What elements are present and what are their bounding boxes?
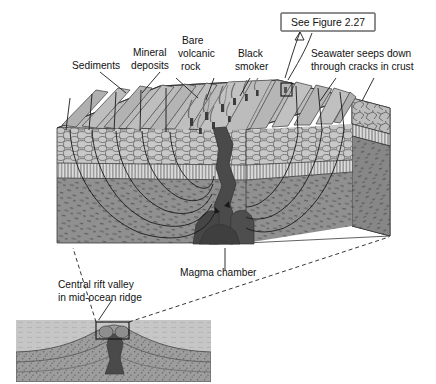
label-magma-chamber: Magma chamber — [180, 267, 257, 278]
inset-cross-section — [16, 320, 211, 382]
label-black-smoker-2: smoker — [235, 61, 269, 72]
label-mineral-deposits-2: deposits — [131, 60, 169, 71]
label-sediments: Sediments — [72, 60, 120, 71]
label-mineral-deposits-1: Mineral — [133, 47, 166, 58]
label-seawater-2: through cracks in crust — [311, 61, 414, 72]
callout-leader — [285, 32, 312, 80]
callout-label: See Figure 2.27 — [291, 17, 365, 28]
label-bare-volcanic-rock-1: Bare — [182, 35, 204, 46]
label-black-smoker-1: Black — [238, 48, 264, 59]
label-seawater-1: Seawater seeps down — [311, 48, 411, 59]
label-bare-volcanic-rock-3: rock — [181, 61, 201, 72]
label-bare-volcanic-rock-2: volcanic — [178, 48, 215, 59]
see-figure-callout[interactable]: See Figure 2.27 — [281, 13, 375, 31]
detail-marker-smoker — [284, 87, 287, 93]
block-rear-cut-face — [246, 124, 352, 243]
block-right-cut-face — [352, 98, 390, 236]
figure-root: See Figure 2.27 — [0, 0, 436, 384]
label-central-rift-1: Central rift valley — [58, 279, 135, 290]
label-central-rift-2: in mid-ocean ridge — [58, 292, 142, 303]
